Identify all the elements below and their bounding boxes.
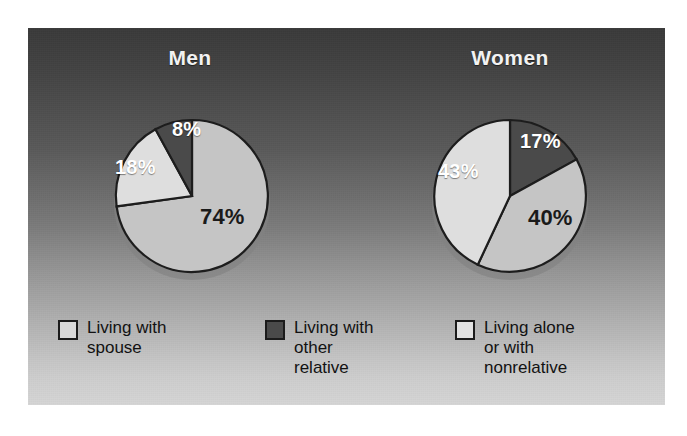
legend-label-living-with-spouse: Living with spouse	[87, 318, 166, 358]
pie-women-svg	[426, 112, 594, 284]
chart-figure: Men 8% 18% 74% Women	[0, 0, 687, 436]
legend-label-living-alone-or-with-nonrelative: Living alone or with nonrelative	[484, 318, 575, 378]
pie-men-label-spouse: 74%	[200, 204, 245, 230]
legend-item-living-with-spouse: Living with spouse	[58, 318, 166, 358]
pie-title-men: Men	[110, 46, 270, 70]
pie-men-label-other: 8%	[172, 118, 201, 141]
pie-men-label-alone: 18%	[115, 156, 156, 179]
legend-swatch-living-alone-or-with-nonrelative	[455, 320, 475, 340]
legend-label-living-with-other-relative: Living with other relative	[294, 318, 373, 378]
legend-swatch-living-with-other-relative	[265, 320, 285, 340]
pie-women-label-alone: 43%	[438, 160, 479, 183]
pie-title-women: Women	[425, 46, 595, 70]
legend-swatch-living-with-spouse	[58, 320, 78, 340]
legend-item-living-with-other-relative: Living with other relative	[265, 318, 373, 378]
pie-women-label-spouse: 40%	[528, 205, 573, 231]
legend-item-living-alone-or-with-nonrelative: Living alone or with nonrelative	[455, 318, 575, 378]
pie-chart-women	[426, 112, 594, 284]
pie-women-label-other: 17%	[520, 130, 561, 153]
chart-legend: Living with spouse Living with other rel…	[58, 318, 648, 398]
